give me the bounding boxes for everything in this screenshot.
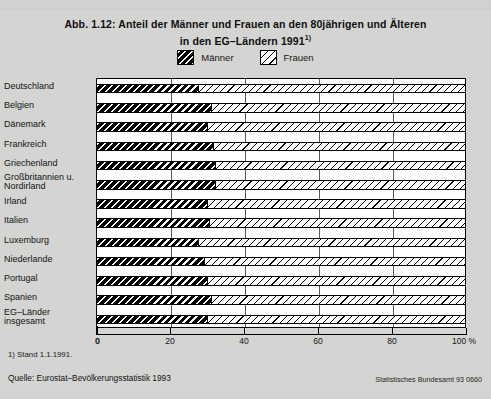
page-background: Abb. 1.12: Anteil der Männer und Frauen … [0, 0, 491, 399]
bar-segment-frauen [215, 180, 465, 190]
category-label-12: EG–Länderinsgesamt [4, 308, 88, 326]
bar-segment-maenner [97, 84, 198, 94]
chart-title-line-2-text: in den EG–Ländern 1991 [180, 35, 305, 47]
chart-bars [97, 79, 465, 327]
bar-segment-maenner [97, 122, 207, 132]
category-label-line: Italien [4, 216, 88, 226]
chart-legend: Männer Frauen [0, 50, 491, 65]
legend-item-frauen: Frauen [260, 50, 314, 65]
x-axis-label-0: 0 [95, 336, 100, 346]
bar-segment-maenner [97, 218, 209, 228]
x-axis-tick-80 [392, 328, 393, 335]
bar-row [97, 122, 465, 132]
chart-title-block: Abb. 1.12: Anteil der Männer und Frauen … [0, 18, 491, 48]
bar-segment-maenner [97, 257, 204, 267]
category-label-2: Dänemark [4, 120, 88, 130]
bar-segment-maenner [97, 142, 213, 152]
category-label-line: Niederlande [4, 255, 88, 265]
x-axis-tick-60 [318, 328, 319, 335]
x-axis [96, 328, 466, 336]
credit-line: Statistisches Bundesamt 93 0660 [375, 375, 482, 384]
category-label-0: Deutschland [4, 82, 88, 92]
bar-row [97, 103, 465, 113]
female-hatch-swatch-icon [260, 50, 277, 65]
category-label-11: Spanien [4, 293, 88, 303]
category-label-7: Italien [4, 216, 88, 226]
bar-segment-maenner [97, 161, 215, 171]
chart-title-footnote-marker: 1) [305, 34, 311, 41]
bar-row [97, 199, 465, 209]
bar-segment-frauen [207, 199, 465, 209]
bar-row [97, 218, 465, 228]
category-label-3: Frankreich [4, 140, 88, 150]
category-label-8: Luxemburg [4, 236, 88, 246]
bar-segment-maenner [97, 315, 207, 325]
x-axis-label-60: 60 [313, 336, 322, 346]
bar-segment-frauen [207, 122, 465, 132]
bar-segment-frauen [215, 161, 465, 171]
bar-row [97, 295, 465, 305]
chart-plot-area [96, 78, 466, 328]
category-label-5: Großbritannien u.Nordirland [4, 173, 88, 191]
x-axis-label-80: 80 [387, 336, 396, 346]
bar-row [97, 276, 465, 286]
footnote-stand: 1) Stand 1.1.1991. [8, 350, 72, 359]
category-label-4: Griechenland [4, 159, 88, 169]
bar-segment-maenner [97, 199, 207, 209]
bar-segment-frauen [211, 103, 465, 113]
category-label-line: Dänemark [4, 120, 88, 130]
bar-segment-maenner [97, 276, 207, 286]
bar-segment-maenner [97, 295, 211, 305]
bar-segment-frauen [198, 238, 465, 248]
bar-row [97, 257, 465, 267]
legend-label-frauen: Frauen [284, 52, 314, 63]
category-label-10: Portugal [4, 274, 88, 284]
category-label-6: Irland [4, 197, 88, 207]
x-axis-tick-labels: 020406080100 % [0, 336, 491, 350]
source-line: Quelle: Eurostat–Bevölkerungsstatistik 1… [8, 373, 171, 383]
x-axis-label-100: 100 % [452, 336, 476, 346]
category-label-1: Belgien [4, 101, 88, 111]
category-axis-labels: DeutschlandBelgienDänemarkFrankreichGrie… [0, 78, 94, 328]
x-axis-tick-100 [466, 328, 467, 335]
male-hatch-swatch-icon [177, 50, 194, 65]
x-axis-tick-0 [96, 326, 98, 335]
chart-title-line-1: Abb. 1.12: Anteil der Männer und Frauen … [0, 18, 491, 31]
chart-title-line-2: in den EG–Ländern 19911) [0, 31, 491, 48]
category-label-line: Griechenland [4, 159, 88, 169]
bar-row [97, 161, 465, 171]
category-label-9: Niederlande [4, 255, 88, 265]
legend-item-maenner: Männer [177, 50, 233, 65]
bar-segment-frauen [213, 142, 465, 152]
bar-row [97, 315, 465, 325]
category-label-line: insgesamt [4, 317, 88, 326]
bar-row [97, 238, 465, 248]
bar-segment-frauen [207, 315, 465, 325]
bar-segment-frauen [204, 257, 465, 267]
bar-row [97, 84, 465, 94]
bar-segment-maenner [97, 238, 198, 248]
bar-segment-frauen [211, 295, 465, 305]
category-label-line: Irland [4, 197, 88, 207]
x-axis-tick-40 [244, 328, 245, 335]
legend-label-maenner: Männer [201, 52, 233, 63]
bar-row [97, 142, 465, 152]
bar-segment-frauen [207, 276, 465, 286]
category-label-line: Belgien [4, 101, 88, 111]
category-label-line: Spanien [4, 293, 88, 303]
x-axis-label-40: 40 [239, 336, 248, 346]
x-axis-label-20: 20 [165, 336, 174, 346]
bar-segment-maenner [97, 103, 211, 113]
bar-segment-frauen [198, 84, 465, 94]
bar-segment-frauen [209, 218, 465, 228]
category-label-line: Deutschland [4, 82, 88, 92]
bar-row [97, 180, 465, 190]
category-label-line: Portugal [4, 274, 88, 284]
x-axis-tick-20 [170, 328, 171, 335]
category-label-line: Frankreich [4, 140, 88, 150]
bar-segment-maenner [97, 180, 215, 190]
category-label-line: Nordirland [4, 182, 88, 191]
category-label-line: Luxemburg [4, 236, 88, 246]
